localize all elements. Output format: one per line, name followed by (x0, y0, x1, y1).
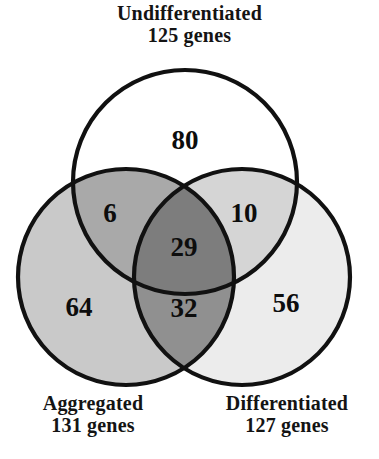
set-name-differentiated: Differentiated (198, 392, 376, 414)
region-count-left-only: 64 (66, 294, 93, 321)
region-count-bottom-overlap: 32 (171, 295, 198, 322)
region-count-top-right-overlap: 10 (231, 200, 258, 227)
set-count-differentiated: 127 genes (198, 414, 376, 436)
set-label-differentiated: Differentiated 127 genes (198, 392, 376, 437)
set-count-aggregated: 131 genes (4, 414, 182, 436)
region-count-top-only: 80 (172, 127, 199, 154)
venn-diagram-figure: Undifferentiated 125 genes (0, 0, 379, 459)
venn-circles (0, 0, 379, 459)
region-count-right-only: 56 (273, 290, 300, 317)
region-count-top-left-overlap: 6 (103, 200, 117, 227)
set-name-aggregated: Aggregated (4, 392, 182, 414)
region-count-center-overlap: 29 (171, 234, 198, 261)
set-label-aggregated: Aggregated 131 genes (4, 392, 182, 437)
